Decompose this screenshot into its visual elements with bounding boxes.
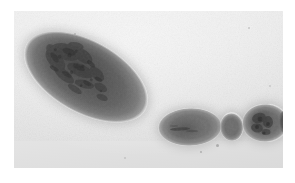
photo-page: [0, 0, 295, 183]
photographic-plate: [14, 11, 283, 168]
large-segment-interior-mottling: [14, 13, 163, 142]
debris-speck: [74, 33, 76, 35]
head-internal-structure: [242, 104, 283, 142]
small-segment: [219, 111, 244, 141]
debris-speck: [200, 151, 202, 153]
specimen-organism: [14, 11, 283, 168]
debris-speck: [216, 144, 219, 147]
debris-speck: [124, 157, 126, 159]
debris-speck: [269, 85, 271, 87]
debris-speck: [248, 27, 250, 29]
middle-segment-streak: [158, 108, 222, 146]
